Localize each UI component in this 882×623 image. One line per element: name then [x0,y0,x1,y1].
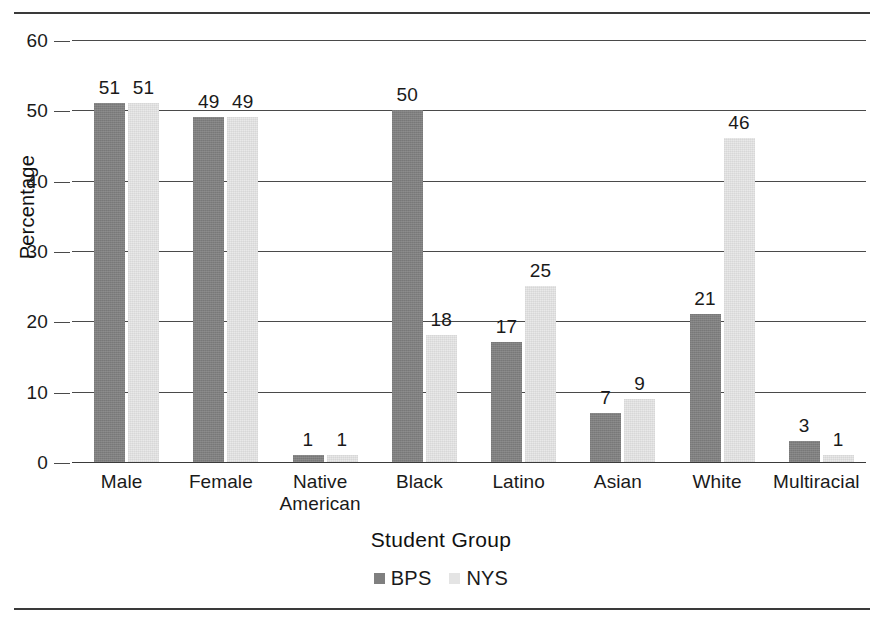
bar-nys[interactable]: 25 [525,286,556,462]
legend-swatch-icon [449,573,460,584]
bar-value-label: 1 [833,429,844,451]
bar-value-label: 50 [396,84,418,106]
bar-nys[interactable]: 1 [327,455,358,462]
bar-value-label: 51 [133,77,155,99]
bar-value-label: 3 [799,415,810,437]
bar-value-label: 25 [530,260,552,282]
bar-value-label: 46 [728,112,750,134]
y-tick-mark-50 [54,111,70,112]
bar-nys[interactable]: 49 [227,117,258,462]
x-tick-label-line: Black [370,471,469,493]
x-tick-label: Black [370,471,469,493]
x-tick-label: Male [72,471,171,493]
bar-value-label: 18 [430,309,452,331]
bar-value-label: 49 [198,91,220,113]
bar-value-label: 9 [634,373,645,395]
bar-nys[interactable]: 18 [426,335,457,462]
bar-value-label: 51 [99,77,121,99]
bar-group: 5018Black [370,40,469,462]
x-tick-label-line: Male [72,471,171,493]
bar-group: 2146White [668,40,767,462]
y-tick-label-30: 30 [26,241,48,263]
x-tick-label-line: Latino [469,471,568,493]
bar-value-label: 1 [337,429,348,451]
bar-value-label: 21 [694,288,716,310]
chart-figure: Percentage 01020304050605151Male4949Fema… [0,0,882,623]
y-tick-label-40: 40 [26,170,48,192]
bar-bps[interactable]: 1 [293,455,324,462]
y-tick-mark-30 [54,252,70,253]
x-tick-label: Asian [568,471,667,493]
bar-value-label: 1 [303,429,314,451]
gridline-0: 0 [72,462,866,463]
bar-value-label: 49 [232,91,254,113]
y-tick-label-0: 0 [37,452,48,474]
x-axis-title: Student Group [0,528,882,552]
y-tick-label-10: 10 [26,381,48,403]
bar-value-label: 17 [496,316,518,338]
x-tick-label: Multiracial [767,471,866,493]
legend-label: BPS [391,567,432,590]
bar-nys[interactable]: 46 [724,138,755,462]
bar-group: 4949Female [171,40,270,462]
legend-swatch-icon [374,573,385,584]
x-tick-label-line: American [271,493,370,515]
plot-area: 01020304050605151Male4949Female11NativeA… [72,40,866,462]
y-tick-mark-20 [54,322,70,323]
bar-bps[interactable]: 21 [690,314,721,462]
legend-item-bps[interactable]: BPS [374,567,432,590]
x-tick-label: Latino [469,471,568,493]
bar-bps[interactable]: 49 [193,117,224,462]
x-tick-label-line: Female [171,471,270,493]
bottom-rule [14,608,870,610]
bar-bps[interactable]: 17 [491,342,522,462]
chart-legend: BPSNYS [0,567,882,590]
bar-group: 31Multiracial [767,40,866,462]
x-tick-label-line: White [668,471,767,493]
bar-group: 79Asian [568,40,667,462]
top-rule [14,12,870,14]
legend-label: NYS [466,567,508,590]
legend-item-nys[interactable]: NYS [449,567,508,590]
x-tick-label-line: Native [271,471,370,493]
y-tick-mark-10 [54,393,70,394]
x-tick-label-line: Asian [568,471,667,493]
y-tick-mark-40 [54,182,70,183]
bar-bps[interactable]: 50 [392,110,423,462]
x-tick-label: White [668,471,767,493]
y-tick-label-60: 60 [26,30,48,52]
y-tick-mark-0 [54,463,70,464]
bar-bps[interactable]: 51 [94,103,125,462]
x-tick-label: NativeAmerican [271,471,370,516]
bar-group: 11NativeAmerican [271,40,370,462]
y-tick-label-20: 20 [26,311,48,333]
bar-value-label: 7 [600,387,611,409]
bar-bps[interactable]: 3 [789,441,820,462]
y-tick-mark-60 [54,41,70,42]
bar-nys[interactable]: 51 [128,103,159,462]
bar-group: 5151Male [72,40,171,462]
x-tick-label: Female [171,471,270,493]
bar-bps[interactable]: 7 [590,413,621,462]
bar-group: 1725Latino [469,40,568,462]
y-tick-label-50: 50 [26,100,48,122]
bar-nys[interactable]: 9 [624,399,655,462]
bar-nys[interactable]: 1 [823,455,854,462]
x-tick-label-line: Multiracial [767,471,866,493]
